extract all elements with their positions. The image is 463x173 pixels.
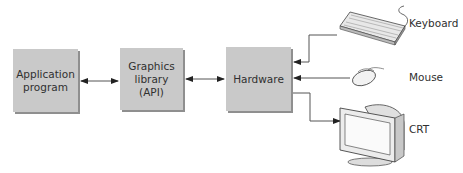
box-label-line: Application: [16, 68, 75, 80]
box-label-line: Graphics: [128, 60, 174, 72]
arrow-keyboard-hardware: [294, 35, 337, 62]
mouse-icon: [350, 67, 384, 88]
hardware-box: Hardware: [226, 47, 291, 111]
box-label-line: program: [23, 81, 68, 93]
box-label-line: Hardware: [233, 73, 284, 86]
box-label-line: library: [135, 73, 169, 85]
crt-monitor-icon: [340, 105, 404, 166]
graphics-library-box: Graphicslibrary(API): [120, 48, 183, 110]
keyboard-label: Keyboard: [409, 17, 458, 29]
arrow-hardware-crt: [292, 93, 340, 121]
application-program-box: Applicationprogram: [13, 49, 78, 112]
box-label-line: (API): [139, 86, 164, 98]
crt-label: CRT: [409, 123, 429, 135]
keyboard-icon: [340, 6, 408, 45]
mouse-label: Mouse: [409, 71, 443, 83]
